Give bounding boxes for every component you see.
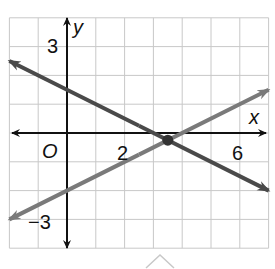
x-axis-label: x [248, 106, 260, 128]
graph-line [9, 155, 139, 220]
coordinate-graph: y x O 2 6 3 −3 [0, 0, 275, 269]
origin-label: O [42, 140, 58, 162]
y-tick-label-3: 3 [47, 35, 58, 57]
y-axis-label: y [71, 16, 84, 38]
graph-line [139, 126, 269, 191]
x-tick-label-6: 6 [232, 142, 243, 164]
x-tick-label-2: 2 [117, 142, 128, 164]
intersection-point [162, 135, 173, 146]
y-tick-label-neg3: −3 [28, 211, 51, 233]
graph-line [9, 61, 139, 126]
chevron-up-icon [146, 255, 174, 268]
